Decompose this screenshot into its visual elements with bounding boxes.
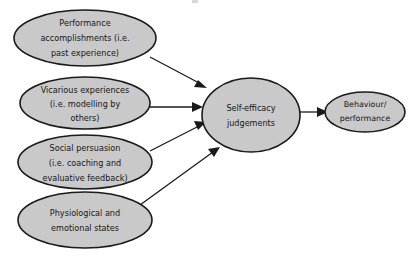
- diagram-canvas: Performance accomplishments (i.e. past e…: [0, 0, 416, 256]
- node-label-line-1: Physiological and: [50, 208, 120, 218]
- edge-self-efficacy-to-behaviour: [300, 107, 328, 117]
- node-label-line-1: Vicarious experiences: [41, 85, 130, 95]
- edge-performance-to-self-efficacy: [150, 57, 207, 88]
- node-shape: [202, 78, 300, 152]
- node-label-line-2: performance: [340, 114, 391, 123]
- node-label-line-1: Social persuasion: [50, 143, 121, 153]
- node-label-line-2: (i.e. modelling by: [50, 99, 121, 109]
- node-label-line-2: accomplishments (i.e.: [40, 33, 129, 43]
- node-shape: [325, 92, 405, 132]
- node-physiological-emotional-states[interactable]: Physiological and emotional states: [18, 192, 152, 248]
- node-vicarious-experiences[interactable]: Vicarious experiences (i.e. modelling by…: [20, 77, 150, 129]
- node-label-line-2: (i.e. coaching and: [49, 158, 121, 168]
- node-label-line-2: emotional states: [51, 223, 119, 233]
- node-shape: [18, 192, 152, 248]
- node-label-line-3: evaluative feedback): [42, 173, 127, 183]
- node-label-line-1: Performance: [59, 18, 110, 28]
- node-social-persuasion[interactable]: Social persuasion (i.e. coaching and eva…: [18, 135, 152, 189]
- node-label-line-1: Behaviour/: [344, 100, 387, 109]
- node-self-efficacy-judgements[interactable]: Self-efficacy judgements: [202, 78, 300, 152]
- node-behaviour-performance[interactable]: Behaviour/ performance: [325, 92, 405, 132]
- node-label-line-3: past experience): [51, 48, 119, 58]
- edge-physiological-to-self-efficacy: [140, 147, 220, 205]
- scan-artifact: [192, 0, 198, 3]
- self-efficacy-diagram: Performance accomplishments (i.e. past e…: [0, 0, 416, 256]
- node-label-line-3: others): [71, 113, 100, 123]
- node-label-line-2: judgements: [226, 118, 275, 128]
- node-performance-accomplishments[interactable]: Performance accomplishments (i.e. past e…: [14, 10, 156, 66]
- edge-vicarious-to-self-efficacy: [150, 102, 203, 112]
- edge-social-to-self-efficacy: [150, 121, 206, 151]
- node-label-line-1: Self-efficacy: [226, 103, 275, 113]
